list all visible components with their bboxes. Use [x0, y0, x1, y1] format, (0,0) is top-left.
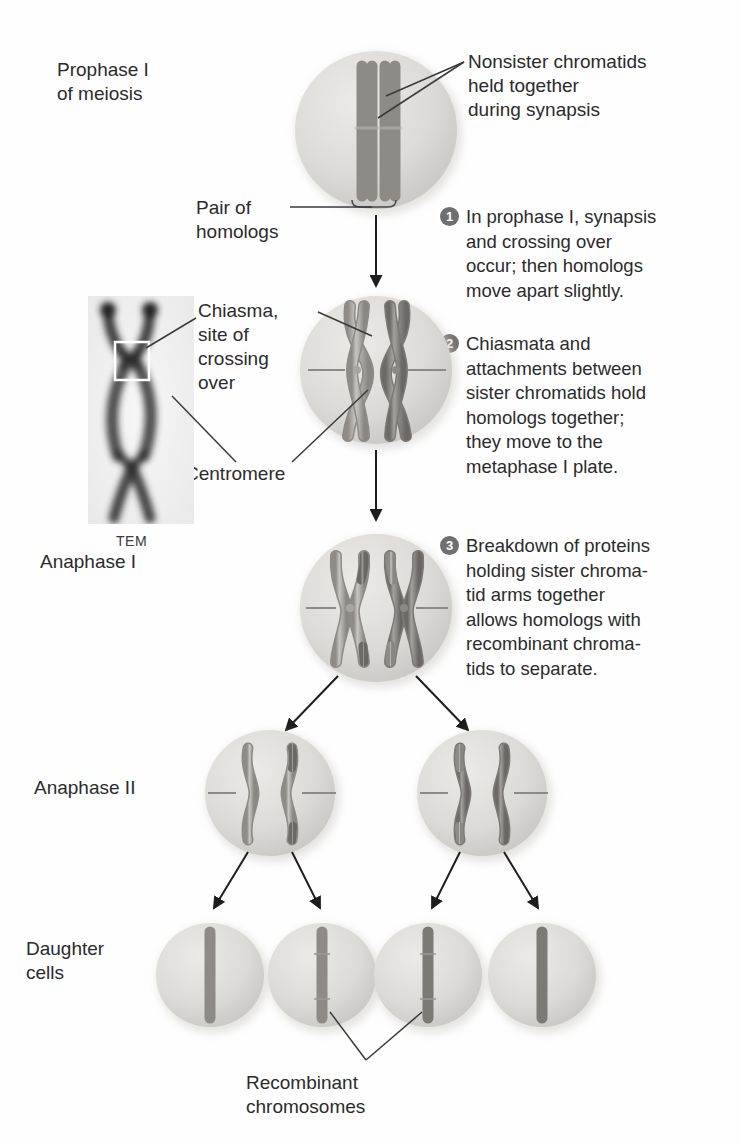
arrow-anaphase-i-to-left: [286, 676, 338, 730]
cell-daughter-1: [156, 923, 268, 1031]
leader-recombinant-right: [366, 1012, 422, 1060]
cell-prophase-i: [295, 51, 461, 213]
figure-canvas: Prophase I of meiosis Nonsister chromati…: [0, 0, 740, 1143]
leader-centromere-tem: [172, 396, 236, 462]
arrow-anaphase-i-to-right: [416, 676, 468, 730]
cell-daughter-2: [268, 923, 380, 1031]
cell-daughter-3: [374, 923, 486, 1031]
cell-anaphase-i: [300, 534, 456, 686]
diagram-overlay: [0, 0, 740, 1143]
cell-metaphase-i: [300, 296, 456, 448]
cell-anaphase-ii-left: [205, 730, 339, 860]
cell-daughter-4: [488, 923, 600, 1031]
arrow-to-daughter-1: [214, 852, 248, 908]
cell-anaphase-ii-right: [417, 730, 551, 860]
arrow-to-daughter-2: [292, 852, 320, 908]
leader-chiasma-tem: [146, 318, 196, 348]
arrow-to-daughter-3: [432, 852, 460, 908]
arrow-to-daughter-4: [504, 852, 538, 908]
